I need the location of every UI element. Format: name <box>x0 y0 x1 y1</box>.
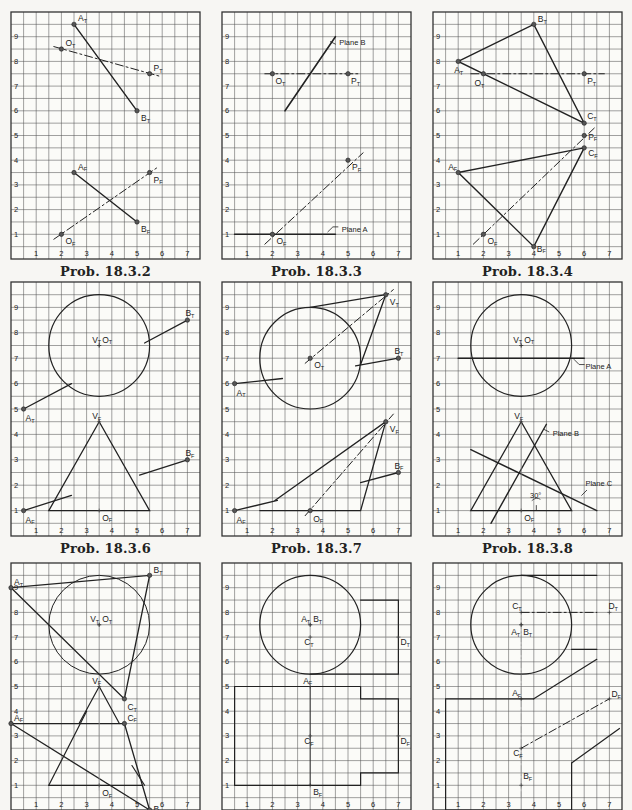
grid-diagram: 1234567123456789ATBTAFBFVTOTVFOF <box>11 282 200 536</box>
svg-text:4: 4 <box>225 707 229 716</box>
svg-text:1: 1 <box>225 230 229 239</box>
svg-text:5: 5 <box>346 526 350 535</box>
callout-label: Plane B <box>339 38 365 47</box>
problem-panel-8: 1234567123456789ATBTCTDTAFCFDFBF <box>222 563 411 810</box>
svg-text:1: 1 <box>436 230 440 239</box>
svg-text:5: 5 <box>225 682 229 691</box>
svg-text:7: 7 <box>396 526 400 535</box>
svg-text:4: 4 <box>110 526 114 535</box>
svg-text:3: 3 <box>296 526 300 535</box>
svg-text:1: 1 <box>34 526 38 535</box>
svg-text:1: 1 <box>14 506 18 515</box>
svg-text:8: 8 <box>436 608 440 617</box>
svg-text:2: 2 <box>270 526 274 535</box>
svg-text:4: 4 <box>225 430 229 439</box>
svg-text:3: 3 <box>85 249 89 258</box>
problem-caption: Prob. 18.3.7 <box>222 541 411 556</box>
svg-text:4: 4 <box>14 156 18 165</box>
svg-text:8: 8 <box>14 57 18 66</box>
svg-text:6: 6 <box>160 526 164 535</box>
svg-text:4: 4 <box>532 526 536 535</box>
svg-text:7: 7 <box>396 800 400 809</box>
grid-lines <box>11 563 200 810</box>
svg-text:5: 5 <box>436 405 440 414</box>
callout-label: 30° <box>530 491 541 500</box>
svg-text:2: 2 <box>59 526 63 535</box>
svg-text:4: 4 <box>14 430 18 439</box>
svg-text:6: 6 <box>436 106 440 115</box>
grid-lines <box>222 12 411 259</box>
problem-panel-6: 1234567123456789VTOTVFOFPlane APlane BPl… <box>433 282 622 536</box>
svg-text:6: 6 <box>582 526 586 535</box>
svg-text:4: 4 <box>321 800 325 809</box>
svg-text:5: 5 <box>225 405 229 414</box>
problem-panel-4: 1234567123456789ATBTAFBFVTOTVFOF <box>11 282 200 536</box>
svg-text:2: 2 <box>270 249 274 258</box>
svg-text:7: 7 <box>185 526 189 535</box>
svg-text:9: 9 <box>436 32 440 41</box>
svg-text:5: 5 <box>14 131 18 140</box>
svg-text:4: 4 <box>225 156 229 165</box>
svg-text:1: 1 <box>225 506 229 515</box>
svg-text:7: 7 <box>14 633 18 642</box>
svg-text:7: 7 <box>607 526 611 535</box>
svg-text:3: 3 <box>85 800 89 809</box>
svg-text:5: 5 <box>14 405 18 414</box>
svg-text:3: 3 <box>296 800 300 809</box>
problem-panel-9: 1234567123456789CTDTATBTAFDFCFBF <box>433 563 622 810</box>
svg-text:5: 5 <box>135 526 139 535</box>
svg-text:4: 4 <box>110 800 114 809</box>
grid-diagram: 1234567123456789ATBTOTPTAFBFOFPF <box>11 12 200 259</box>
svg-text:6: 6 <box>225 379 229 388</box>
svg-text:1: 1 <box>225 781 229 790</box>
svg-text:6: 6 <box>14 657 18 666</box>
svg-text:1: 1 <box>456 800 460 809</box>
svg-text:6: 6 <box>582 249 586 258</box>
svg-text:6: 6 <box>225 657 229 666</box>
grid-lines <box>433 282 622 536</box>
svg-text:1: 1 <box>456 249 460 258</box>
svg-text:6: 6 <box>582 800 586 809</box>
svg-text:2: 2 <box>436 205 440 214</box>
point-c-f: CF <box>513 746 523 759</box>
grid-diagram: 1234567123456789CTDTATBTAFDFCFBF <box>433 563 622 810</box>
svg-text:2: 2 <box>59 249 63 258</box>
svg-text:3: 3 <box>85 526 89 535</box>
callout-label: Plane A <box>585 362 611 371</box>
svg-text:6: 6 <box>14 379 18 388</box>
problem-panel-2: 1234567123456789OTPTOFPFPlane BPlane A <box>222 12 411 259</box>
svg-text:7: 7 <box>436 354 440 363</box>
svg-text:9: 9 <box>14 32 18 41</box>
svg-text:3: 3 <box>436 731 440 740</box>
callout-label: Plane B <box>553 429 579 438</box>
svg-text:6: 6 <box>371 526 375 535</box>
problem-panel-1: 1234567123456789ATBTOTPTAFBFOFPF <box>11 12 200 259</box>
svg-text:7: 7 <box>607 800 611 809</box>
svg-text:2: 2 <box>225 205 229 214</box>
svg-text:2: 2 <box>436 481 440 490</box>
svg-text:4: 4 <box>321 526 325 535</box>
grid-diagram: 1234567123456789VTOTATBTVFAFOFBF <box>222 282 411 536</box>
svg-text:6: 6 <box>160 249 164 258</box>
svg-text:7: 7 <box>607 249 611 258</box>
problem-caption: Prob. 18.3.3 <box>222 264 411 279</box>
svg-text:5: 5 <box>557 800 561 809</box>
grid-lines <box>11 282 200 536</box>
svg-text:8: 8 <box>436 328 440 337</box>
svg-text:5: 5 <box>346 249 350 258</box>
grid-diagram: 1234567123456789VTOTVFOFPlane APlane BPl… <box>433 282 622 536</box>
svg-text:1: 1 <box>34 249 38 258</box>
svg-text:6: 6 <box>160 800 164 809</box>
svg-text:4: 4 <box>110 249 114 258</box>
svg-text:9: 9 <box>225 303 229 312</box>
svg-text:6: 6 <box>371 800 375 809</box>
svg-text:2: 2 <box>59 800 63 809</box>
svg-text:7: 7 <box>225 354 229 363</box>
svg-text:2: 2 <box>481 526 485 535</box>
svg-text:3: 3 <box>436 455 440 464</box>
callout-label: Plane C <box>585 479 612 488</box>
svg-text:7: 7 <box>14 82 18 91</box>
svg-text:1: 1 <box>436 506 440 515</box>
svg-text:4: 4 <box>436 707 440 716</box>
svg-text:8: 8 <box>225 57 229 66</box>
